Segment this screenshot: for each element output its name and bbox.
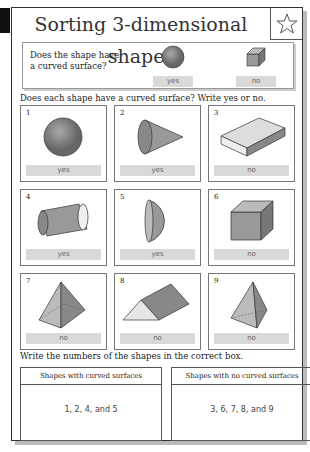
shape-card-9: 9 no (208, 273, 295, 350)
cylinder-icon (21, 196, 106, 246)
star-outline-icon (270, 8, 302, 40)
box-header: Shapes with curved surfaces (21, 368, 161, 385)
intro-question: Does the shape have a curved surface? (30, 50, 120, 71)
cube-icon (209, 196, 294, 246)
box-answer: 3, 6, 7, 8, and 9 (172, 405, 310, 414)
example-answer: no (236, 76, 276, 87)
answer-label: no (214, 333, 289, 344)
answer-label: yes (26, 249, 101, 260)
intro-example-box: Does the shape have a curved surface? ye… (22, 42, 294, 89)
sphere-icon (21, 112, 106, 162)
example-cube: no (236, 45, 276, 87)
shape-card-7: 7 no (20, 273, 107, 350)
triangular-pyramid-icon (209, 280, 294, 330)
cone-icon (115, 112, 200, 162)
curved-surfaces-box: Shapes with curved surfaces 1, 2, 4, and… (20, 367, 162, 441)
square-pyramid-icon (21, 280, 106, 330)
worksheet-page: Sorting 3-dimensional shapes Does the sh… (11, 7, 303, 441)
sphere-icon (161, 45, 185, 69)
shape-card-8: 8 no (114, 273, 201, 350)
instruction-1: Does each shape have a curved surface? W… (20, 93, 266, 103)
box-header: Shapes with no curved surfaces (172, 368, 310, 385)
answer-label: yes (120, 249, 195, 260)
no-curved-surfaces-box: Shapes with no curved surfaces 3, 6, 7, … (171, 367, 310, 441)
shape-card-3: 3 no (208, 105, 295, 182)
shape-card-4: 4 yes (20, 189, 107, 266)
instruction-2: Write the numbers of the shapes in the c… (20, 351, 243, 361)
page-title: Sorting 3-dimensional shapes (12, 8, 270, 40)
triangular-prism-icon (115, 280, 200, 330)
example-answer: yes (153, 76, 193, 87)
example-sphere: yes (153, 45, 193, 87)
rectangular-prism-icon (209, 112, 294, 162)
answer-label: no (214, 165, 289, 176)
page-tab-marker (0, 8, 10, 33)
box-answer: 1, 2, 4, and 5 (21, 405, 161, 414)
answer-label: yes (26, 165, 101, 176)
shape-card-2: 2 yes (114, 105, 201, 182)
shape-card-6: 6 no (208, 189, 295, 266)
answer-label: yes (120, 165, 195, 176)
answer-label: no (120, 333, 195, 344)
answer-label: no (26, 333, 101, 344)
shape-card-1: 1 yes (20, 105, 107, 182)
shape-card-5: 5 yes (114, 189, 201, 266)
cube-icon (244, 45, 268, 69)
answer-label: no (214, 249, 289, 260)
hemisphere-icon (115, 196, 200, 246)
